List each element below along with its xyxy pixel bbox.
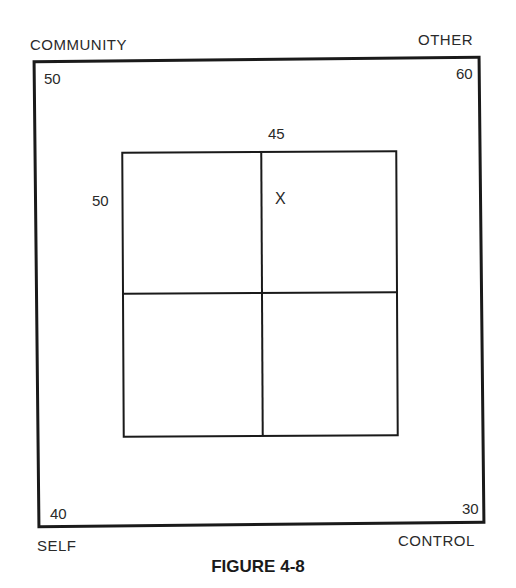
label-control: CONTROL bbox=[398, 532, 475, 549]
inner-top-value: 45 bbox=[268, 125, 285, 142]
value-control: 30 bbox=[462, 500, 479, 517]
figure-caption: FIGURE 4-8 bbox=[0, 557, 516, 577]
position-marker: X bbox=[275, 190, 286, 208]
label-self: SELF bbox=[37, 537, 77, 554]
label-community: COMMUNITY bbox=[30, 36, 127, 53]
value-self: 40 bbox=[50, 505, 67, 522]
inner-left-value: 50 bbox=[92, 192, 109, 209]
inner-grid bbox=[121, 150, 398, 437]
inner-vertical-divider bbox=[260, 153, 263, 435]
value-other: 60 bbox=[456, 65, 473, 82]
label-other: OTHER bbox=[418, 31, 473, 48]
inner-horizontal-divider bbox=[124, 291, 396, 294]
value-community: 50 bbox=[44, 70, 61, 87]
